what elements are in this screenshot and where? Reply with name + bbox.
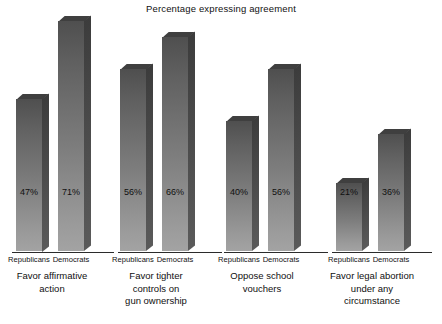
bar-front-face [58, 21, 84, 251]
axis-line [118, 252, 222, 253]
bar-value-label: 71% [58, 187, 84, 197]
category-label-line: vouchers [208, 283, 316, 296]
bar-value-label: 66% [162, 187, 188, 197]
category-label-line: Oppose school [208, 270, 316, 283]
category-label: Favor legal abortionunder anycircumstanc… [318, 270, 426, 308]
bar[interactable]: 56% [120, 69, 146, 251]
category-label-line: circumstance [318, 295, 426, 308]
category-label-line: controls on [102, 283, 210, 296]
category-label-line: Favor tighter [102, 270, 210, 283]
series-label-democrats: Democrats [361, 255, 421, 264]
bar-front-face [268, 69, 294, 251]
bar-front-face [16, 99, 42, 252]
series-label-democrats: Democrats [251, 255, 311, 264]
bar-side-face [188, 31, 195, 251]
bar-side-face [294, 64, 301, 251]
category-label-line: action [0, 283, 106, 296]
bar[interactable]: 21% [336, 183, 362, 251]
bar[interactable]: 66% [162, 37, 188, 251]
bar-side-face [404, 129, 411, 251]
bar-front-face [120, 69, 146, 251]
category-label: Favor affirmativeaction [0, 270, 106, 295]
category-label: Oppose schoolvouchers [208, 270, 316, 295]
series-label-democrats: Democrats [145, 255, 205, 264]
bar[interactable]: 40% [226, 121, 252, 251]
axis-line [12, 252, 114, 253]
bar-side-face [84, 15, 91, 251]
bar-side-face [252, 116, 259, 251]
category-label-line: Favor affirmative [0, 270, 106, 283]
category-label-line: under any [318, 283, 426, 296]
bar-chart: Percentage expressing agreement 47%71%56… [0, 0, 442, 324]
bar-value-label: 56% [268, 187, 294, 197]
axis-line [224, 252, 328, 253]
bar-value-label: 47% [16, 187, 42, 197]
bar-side-face [42, 93, 49, 251]
bar-value-label: 40% [226, 187, 252, 197]
bar[interactable]: 56% [268, 69, 294, 251]
bar[interactable]: 47% [16, 99, 42, 252]
bar[interactable]: 36% [378, 134, 404, 251]
axis-line [332, 252, 432, 253]
bar-value-label: 21% [336, 187, 362, 197]
bar-side-face [146, 64, 153, 251]
series-label-democrats: Democrats [41, 255, 101, 264]
bar-value-label: 56% [120, 187, 146, 197]
category-label: Favor tightercontrols ongun ownership [102, 270, 210, 308]
bar[interactable]: 71% [58, 21, 84, 251]
category-label-line: gun ownership [102, 295, 210, 308]
bar-value-label: 36% [378, 187, 404, 197]
bar-front-face [162, 37, 188, 251]
category-label-line: Favor legal abortion [318, 270, 426, 283]
plot-area: 47%71%56%66%40%56%21%36% [0, 0, 442, 253]
bar-side-face [362, 177, 369, 251]
